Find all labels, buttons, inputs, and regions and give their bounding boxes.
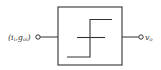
output-label: vo xyxy=(145,33,153,43)
output-terminal xyxy=(139,35,143,39)
step-curve xyxy=(67,20,112,58)
block-diagram: (ii,goi) vo xyxy=(0,0,161,70)
step-characteristic-icon xyxy=(67,20,112,58)
input-label: (ii,goi) xyxy=(8,33,31,43)
input-terminal xyxy=(36,35,40,39)
